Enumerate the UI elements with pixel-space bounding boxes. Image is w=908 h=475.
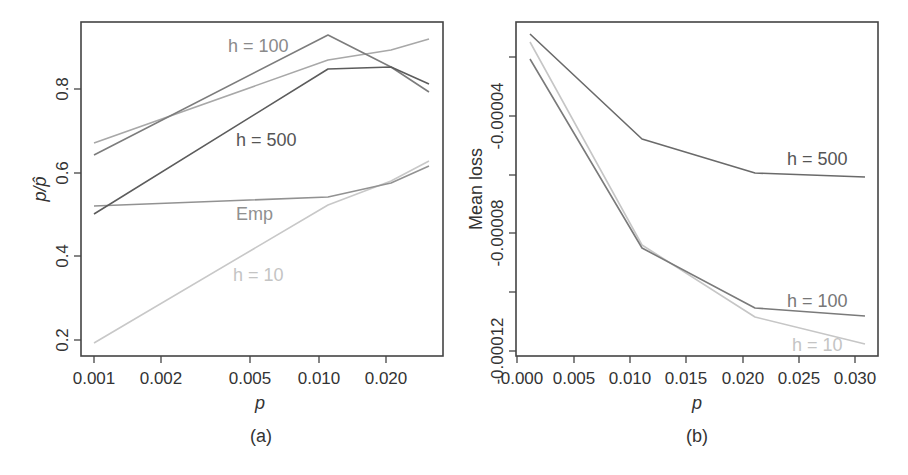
x-tick-label: 0.015	[665, 369, 708, 388]
x-tick-label: 0.005	[553, 369, 596, 388]
x-axis-b: 0.000 0.005 0.010 0.015 0.020 0.025 0.03…	[501, 356, 877, 413]
series-b-h100	[530, 59, 865, 316]
y-tick-label: 0.2	[53, 328, 72, 352]
x-tick-label: 0.020	[722, 369, 765, 388]
y-axis-title-a: p/p̂	[30, 176, 50, 202]
x-tick-label: 0.002	[140, 369, 183, 388]
panel-a: 0.2 0.4 0.6 0.8 p/p̂ 0.001 0.002 0.005 0…	[30, 22, 443, 446]
x-tick-label: 0.010	[609, 369, 652, 388]
x-axis-a: 0.001 0.002 0.005 0.010 0.020 p	[73, 356, 408, 413]
y-axis-b: -0.00004 -0.00008 -0.00012 Mean loss	[466, 57, 516, 385]
annotation-a-emp: Emp	[236, 204, 273, 224]
x-tick-label: 0.005	[229, 369, 272, 388]
x-tick-label: 0.030	[834, 369, 877, 388]
x-tick-label: 0.025	[778, 369, 821, 388]
x-tick-label: 0.020	[365, 369, 408, 388]
caption-b: (b)	[686, 426, 708, 446]
y-tick-label: -0.00008	[488, 199, 507, 266]
annotation-a-h500: h = 500	[236, 130, 297, 150]
y-axis-a: 0.2 0.4 0.6 0.8 p/p̂	[30, 77, 81, 352]
series-a-h10	[94, 161, 429, 343]
series-a-emp	[94, 166, 429, 206]
annotation-a-h10: h = 10	[233, 265, 284, 285]
panel-b: -0.00004 -0.00008 -0.00012 Mean loss 0.0…	[466, 22, 878, 446]
annotation-b-h500: h = 500	[787, 149, 848, 169]
x-tick-label: 0.001	[73, 369, 116, 388]
x-tick-label: 0.000	[501, 369, 544, 388]
annotation-a-h100: h = 100	[228, 36, 289, 56]
annotation-b-h10: h = 10	[792, 335, 843, 355]
figure: 0.2 0.4 0.6 0.8 p/p̂ 0.001 0.002 0.005 0…	[0, 0, 908, 475]
x-tick-label: 0.010	[298, 369, 341, 388]
caption-a: (a)	[250, 426, 272, 446]
x-axis-title-a: p	[254, 393, 265, 413]
y-tick-label: -0.00004	[488, 82, 507, 149]
y-tick-label: 0.6	[53, 161, 72, 185]
annotation-b-h100: h = 100	[787, 291, 848, 311]
y-tick-label: 0.4	[53, 244, 72, 268]
y-tick-label: 0.8	[53, 77, 72, 101]
y-axis-title-b: Mean loss	[466, 148, 486, 230]
x-axis-title-b: p	[691, 393, 702, 413]
